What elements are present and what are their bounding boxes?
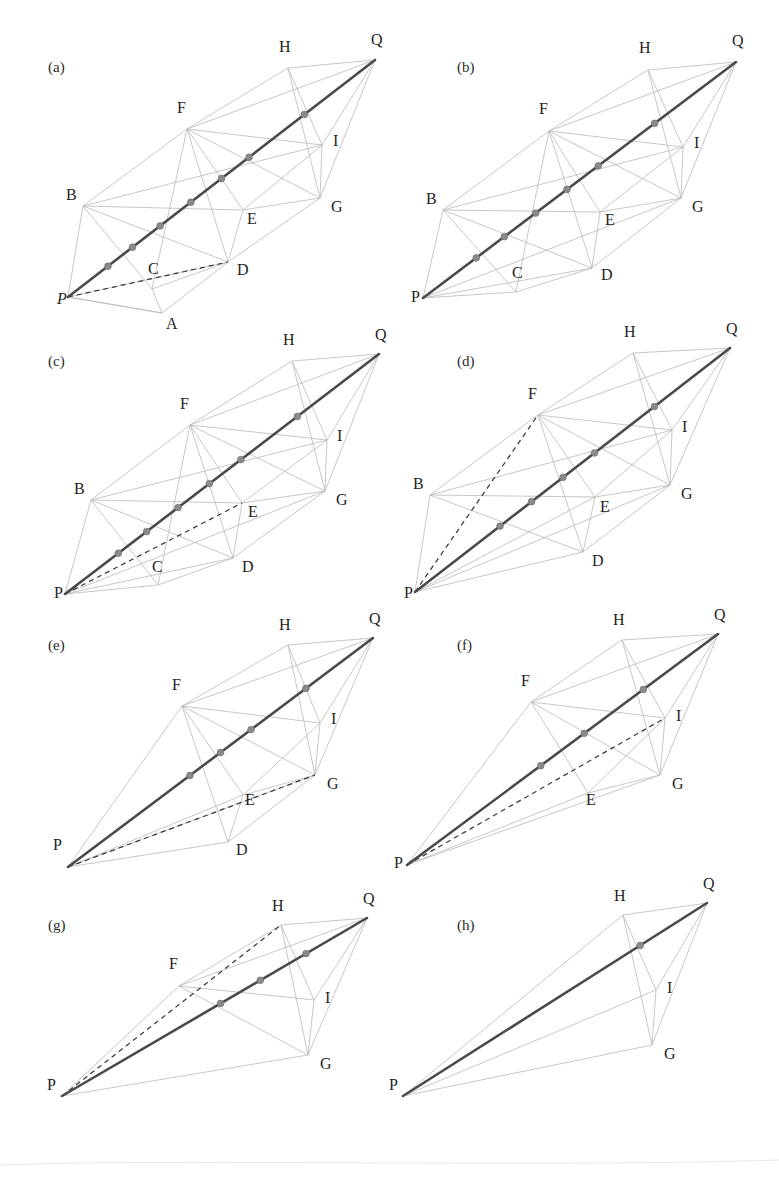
- edge-BF: [91, 425, 190, 500]
- edge-PH: [403, 915, 623, 1096]
- vertex-label-P: P: [389, 1076, 398, 1093]
- edge-PB: [415, 495, 430, 592]
- vertex-label-F: F: [539, 100, 548, 117]
- panel-b: (b)PBCDEFGHIQ: [411, 32, 744, 305]
- vertex-label-E: E: [586, 791, 596, 808]
- vertex-label-B: B: [413, 475, 424, 492]
- vertex-label-I: I: [682, 418, 687, 435]
- vertex-label-P: P: [54, 584, 63, 601]
- edge-IQ: [320, 638, 373, 723]
- path-node-dot: [637, 942, 644, 949]
- edge-FE: [538, 415, 595, 497]
- vertex-label-D: D: [236, 841, 248, 858]
- vertex-label-P: P: [411, 288, 420, 305]
- edge-HI: [292, 361, 327, 440]
- panel-tag-g: (g): [48, 917, 66, 934]
- vertex-label-F: F: [169, 955, 178, 972]
- vertex-label-Q: Q: [369, 610, 381, 627]
- edge-IQ: [322, 60, 375, 145]
- main-path-PQ: [403, 903, 707, 1096]
- edge-DG: [233, 491, 325, 558]
- vertex-label-I: I: [325, 989, 330, 1006]
- dashed-edge-PH: [62, 925, 281, 1096]
- vertex-label-E: E: [247, 210, 257, 227]
- edge-DF: [190, 425, 233, 558]
- edge-DE: [228, 210, 243, 262]
- panel-tag-a: (a): [48, 59, 65, 76]
- edge-FQ: [538, 348, 730, 415]
- vertex-label-D: D: [601, 266, 613, 283]
- edge-FQ: [179, 918, 367, 986]
- edge-BE: [430, 495, 595, 497]
- path-node-dot: [301, 111, 308, 118]
- vertex-label-H: H: [639, 39, 651, 56]
- edge-FH: [182, 645, 288, 706]
- edge-PF: [68, 706, 182, 867]
- path-node-dot: [651, 403, 658, 410]
- path-node-dot: [591, 450, 598, 457]
- edge-BE: [83, 206, 243, 210]
- edge-BI: [83, 145, 322, 206]
- path-node-dot: [248, 726, 255, 733]
- edge-HQ: [648, 62, 736, 70]
- path-node-dot: [237, 456, 244, 463]
- edge-FG: [179, 986, 308, 1055]
- edge-GI: [320, 145, 322, 198]
- edge-PI: [403, 990, 656, 1096]
- edge-FH: [549, 70, 648, 131]
- path-node-dot: [473, 254, 480, 261]
- edge-IQ: [656, 903, 707, 990]
- geometry-figure-svg: (a)PABCDEFGHIQ(b)PBCDEFGHIQ(c)PBCDEFGHIQ…: [0, 0, 779, 1194]
- vertex-label-C: C: [148, 260, 159, 277]
- vertex-label-P: P: [47, 1076, 56, 1093]
- edge-FQ: [190, 354, 379, 425]
- edge-EG: [242, 491, 325, 503]
- path-node-dot: [564, 186, 571, 193]
- edge-BE: [443, 210, 600, 212]
- edge-FI: [549, 131, 683, 147]
- edge-PG: [415, 485, 670, 592]
- edge-EG: [600, 198, 681, 212]
- dashed-edge-PI: [407, 718, 665, 865]
- panel-h: (h)PGHIQ: [389, 875, 715, 1096]
- edge-PE: [415, 497, 595, 592]
- vertex-label-I: I: [337, 427, 342, 444]
- edge-GH: [288, 68, 320, 198]
- edge-FI: [182, 706, 320, 723]
- edge-DG: [583, 485, 670, 552]
- edge-BI: [443, 147, 683, 210]
- vertex-label-P: P: [56, 290, 67, 307]
- edge-BD: [83, 206, 228, 262]
- panel-tag-b: (b): [457, 59, 475, 76]
- path-node-dot: [105, 263, 112, 270]
- path-node-dot: [303, 950, 310, 957]
- edge-CD: [516, 268, 592, 292]
- path-node-dot: [175, 504, 182, 511]
- edge-PD: [68, 842, 228, 867]
- vertex-label-E: E: [248, 503, 258, 520]
- vertex-label-A: A: [166, 315, 178, 332]
- edge-PC: [65, 585, 158, 594]
- edge-FH: [187, 68, 288, 129]
- edge-PG: [403, 1045, 652, 1096]
- edge-HQ: [292, 354, 379, 361]
- vertex-label-B: B: [66, 186, 77, 203]
- edge-GQ: [670, 348, 730, 485]
- edge-FI: [190, 425, 327, 440]
- path-node-dot: [257, 977, 264, 984]
- vertex-label-E: E: [245, 791, 255, 808]
- edge-PG: [65, 491, 325, 594]
- vertex-label-F: F: [177, 99, 186, 116]
- edge-FH: [538, 353, 633, 415]
- edge-HI: [281, 925, 314, 1000]
- edge-PG: [407, 775, 660, 865]
- scan-edge-line: [0, 1160, 779, 1165]
- edge-FI: [538, 415, 672, 430]
- vertex-label-I: I: [694, 134, 699, 151]
- vertex-label-I: I: [667, 979, 672, 996]
- vertex-label-Q: Q: [703, 875, 715, 892]
- edge-FQ: [187, 60, 375, 129]
- path-node-dot: [537, 762, 544, 769]
- vertex-label-I: I: [333, 132, 338, 149]
- vertex-label-P: P: [53, 836, 62, 853]
